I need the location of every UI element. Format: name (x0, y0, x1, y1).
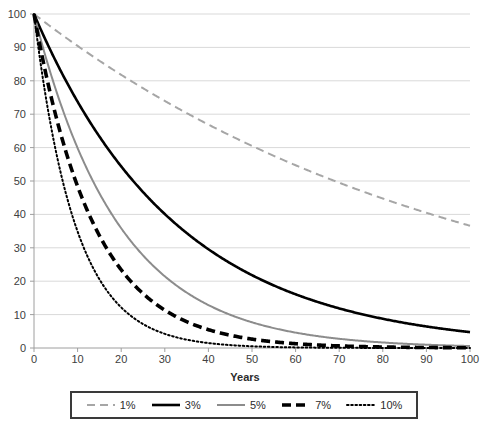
x-tick-label: 90 (420, 353, 432, 365)
legend-swatch-3pct (151, 400, 181, 410)
x-tick-label: 70 (333, 353, 345, 365)
chart-figure: 0102030405060708090100 01020304050607080… (0, 0, 490, 428)
x-tick-label: 30 (159, 353, 171, 365)
legend-swatch-7pct (281, 400, 311, 410)
legend-item-3pct[interactable]: 3% (151, 399, 201, 411)
x-tick-label: 60 (289, 353, 301, 365)
legend-label: 10% (380, 399, 402, 411)
legend-item-1pct[interactable]: 1% (86, 399, 136, 411)
legend-item-7pct[interactable]: 7% (281, 399, 331, 411)
legend-swatch-1pct (86, 400, 116, 410)
x-tick-label: 10 (71, 353, 83, 365)
x-tick-label: 100 (461, 353, 479, 365)
x-tick-label: 40 (202, 353, 214, 365)
legend-label: 3% (185, 399, 201, 411)
x-tick-label: 0 (31, 353, 37, 365)
x-tick-label: 50 (246, 353, 258, 365)
x-tick-label: 80 (377, 353, 389, 365)
legend-item-5pct[interactable]: 5% (216, 399, 266, 411)
x-axis-title: Years (0, 371, 490, 383)
x-tick-label: 20 (115, 353, 127, 365)
legend-label: 7% (315, 399, 331, 411)
legend-swatch-5pct (216, 400, 246, 410)
legend-label: 5% (250, 399, 266, 411)
legend-label: 1% (120, 399, 136, 411)
x-axis-tick-labels: 0102030405060708090100 (0, 0, 490, 428)
legend-item-10pct[interactable]: 10% (346, 399, 402, 411)
legend-swatch-10pct (346, 400, 376, 410)
chart-legend: 1%3%5%7%10% (70, 391, 418, 419)
